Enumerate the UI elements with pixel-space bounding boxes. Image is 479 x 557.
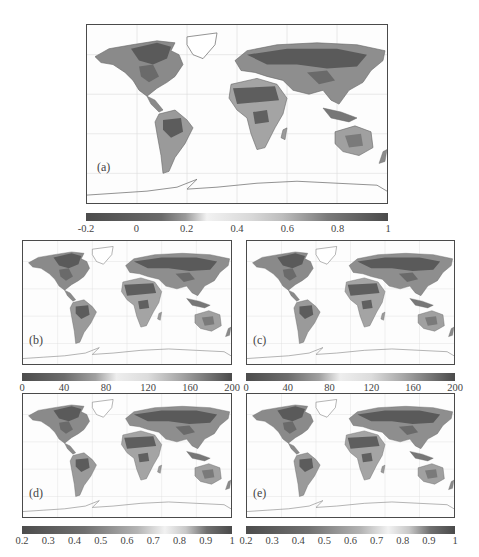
colorbar-a [86,213,388,221]
tick-label: 120 [364,382,380,393]
panel-label-d: (d) [29,486,43,501]
tick-label: 0.6 [344,535,357,546]
map-panel-c: (c) [246,240,455,365]
tick-label: -0.2 [78,223,95,234]
colorbar-c [246,373,455,381]
map-panel-a: (a) [86,24,388,204]
tick-label: 0 [19,382,24,393]
tick-label: 160 [405,382,421,393]
tick-label: 0.4 [68,535,81,546]
map-panel-b: (b) [22,240,232,365]
tick-label: 0.2 [180,223,193,234]
tick-label: 0.6 [120,535,133,546]
world-map-a [87,25,387,203]
tick-label: 0.4 [230,223,243,234]
panel-label-e: (e) [253,486,266,501]
tick-label: 0.7 [370,535,383,546]
map-panel-d: (d) [22,393,232,518]
tick-label: 0.5 [318,535,331,546]
world-map-b [23,241,231,364]
tick-label: 40 [59,382,70,393]
tick-label: 120 [140,382,156,393]
tick-label: 80 [324,382,335,393]
colorbar-e-ticks: 0.2 0.3 0.4 0.5 0.6 0.7 0.8 0.9 1 [246,535,455,549]
tick-label: 0 [243,382,248,393]
tick-label: 160 [182,382,198,393]
tick-label: 1 [452,535,457,546]
tick-label: 0.4 [292,535,305,546]
tick-label: 0.9 [422,535,435,546]
tick-label: 0.2 [239,535,252,546]
tick-label: 1 [229,535,234,546]
tick-label: 0.8 [396,535,409,546]
tick-label: 0.2 [15,535,28,546]
colorbar-a-ticks: -0.2 0 0.2 0.4 0.6 0.8 1 [86,223,388,237]
tick-label: 0.8 [173,535,186,546]
tick-label: 1 [385,223,390,234]
tick-label: 40 [283,382,294,393]
tick-label: 0.9 [199,535,212,546]
colorbar-e [246,526,455,534]
tick-label: 0.5 [94,535,107,546]
world-map-d [23,394,231,517]
tick-label: 200 [447,382,463,393]
tick-label: 0.3 [42,535,55,546]
panel-label-a: (a) [97,160,110,175]
colorbar-d-ticks: 0.2 0.3 0.4 0.5 0.6 0.7 0.8 0.9 1 [22,535,232,549]
colorbar-d [22,526,232,534]
tick-label: 0.7 [147,535,160,546]
world-map-e [247,394,454,517]
map-panel-e: (e) [246,393,455,518]
tick-label: 200 [224,382,240,393]
colorbar-b [22,373,232,381]
tick-label: 0 [134,223,139,234]
panel-label-c: (c) [253,333,266,348]
tick-label: 0.6 [281,223,294,234]
world-map-c [247,241,454,364]
tick-label: 0.8 [331,223,344,234]
panel-label-b: (b) [29,333,43,348]
tick-label: 80 [101,382,112,393]
tick-label: 0.3 [266,535,279,546]
